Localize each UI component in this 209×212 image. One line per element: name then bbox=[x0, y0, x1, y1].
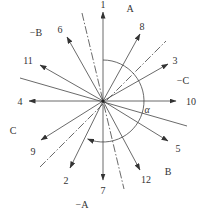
arrow-label-3: 3 bbox=[173, 55, 178, 66]
diagram-canvas: 183105127294116A−B−CCB−Aα bbox=[0, 0, 209, 212]
arrow-label-8: 8 bbox=[140, 21, 145, 32]
arrow-label-11: 11 bbox=[23, 55, 33, 66]
center-point bbox=[101, 99, 104, 102]
arrow-label-5: 5 bbox=[176, 143, 181, 154]
arrow-label-4: 4 bbox=[18, 96, 23, 107]
phase-label: −A bbox=[76, 199, 90, 210]
phase-label: −C bbox=[177, 75, 190, 86]
arrow-label-9: 9 bbox=[31, 146, 36, 157]
arrow-label-6: 6 bbox=[58, 24, 63, 35]
angle-alpha-label: α bbox=[144, 104, 150, 115]
phase-label: B bbox=[165, 166, 172, 177]
arrow-12 bbox=[103, 101, 140, 170]
phase-label: −B bbox=[30, 27, 43, 38]
arrow-label-1: 1 bbox=[101, 0, 106, 10]
phasor-diagram: 183105127294116A−B−CCB−Aα bbox=[0, 0, 209, 212]
arrow-8 bbox=[103, 34, 140, 101]
arrow-label-10: 10 bbox=[186, 96, 196, 107]
arrow-11 bbox=[40, 65, 103, 101]
phase-label: A bbox=[126, 3, 134, 14]
arrow-label-2: 2 bbox=[64, 175, 69, 186]
phasor-arrows bbox=[29, 12, 176, 180]
arrow-label-12: 12 bbox=[141, 174, 151, 185]
arrow-3 bbox=[103, 64, 168, 101]
arrow-5 bbox=[103, 101, 168, 141]
phase-label: C bbox=[10, 125, 17, 136]
arrow-label-7: 7 bbox=[101, 185, 106, 196]
arrow-6 bbox=[67, 37, 103, 101]
